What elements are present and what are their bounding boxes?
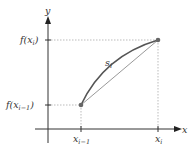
- y-axis-label: y: [44, 5, 51, 16]
- label-fxim1: f(xi−1): [5, 99, 34, 112]
- point-upper: [156, 38, 161, 43]
- x-axis-arrow-icon: [174, 126, 182, 132]
- label-xim1: xi−1: [73, 133, 90, 146]
- arc-length-diagram: y x f(xi) f(xi−1) xi−1 xi si: [0, 0, 190, 151]
- y-axis-arrow-icon: [45, 16, 51, 24]
- chord-line: [81, 40, 158, 105]
- point-lower: [79, 103, 84, 108]
- label-fxi: f(xi): [19, 34, 39, 47]
- x-axis-label: x: [182, 124, 188, 135]
- label-xi: xi: [155, 133, 162, 146]
